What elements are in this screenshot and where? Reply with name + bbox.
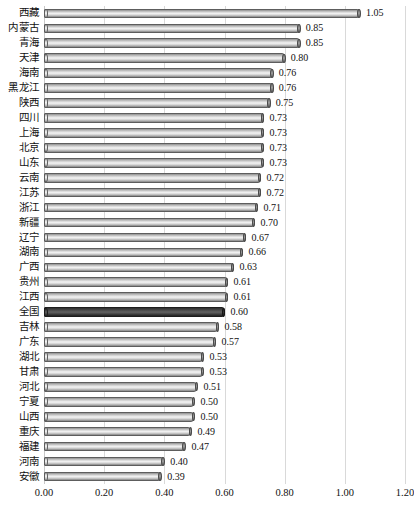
category-label: 江西 xyxy=(19,292,39,303)
category-label: 湖北 xyxy=(19,352,39,363)
category-label: 山东 xyxy=(19,158,39,169)
bar-value-label: 0.85 xyxy=(306,38,324,48)
category-label: 四川 xyxy=(19,113,39,124)
category-label: 山西 xyxy=(19,412,39,423)
bar-row: 广西0.63 xyxy=(44,260,405,275)
category-label: 吉林 xyxy=(19,322,39,333)
bar-value-label: 0.61 xyxy=(234,277,252,287)
bar-fill xyxy=(44,263,234,273)
bar xyxy=(44,38,300,48)
bar-fill xyxy=(44,203,258,213)
category-label: 云南 xyxy=(19,173,39,184)
x-tick-label: 0.80 xyxy=(275,488,293,499)
bar-fill xyxy=(44,38,300,48)
bar xyxy=(44,412,194,422)
bar-value-label: 0.73 xyxy=(270,143,288,153)
category-label: 黑龙江 xyxy=(8,83,39,94)
bar-value-label: 0.50 xyxy=(200,397,218,407)
bar xyxy=(44,397,194,407)
category-label: 北京 xyxy=(19,143,39,154)
bar-value-label: 0.60 xyxy=(231,307,249,317)
bar-fill xyxy=(44,427,191,437)
bar xyxy=(44,158,264,168)
bar-value-label: 0.40 xyxy=(170,457,188,467)
bar-fill xyxy=(44,233,246,243)
category-label: 福建 xyxy=(19,441,39,452)
bar xyxy=(44,68,273,78)
bar-fill xyxy=(44,352,203,362)
bar-value-label: 0.71 xyxy=(264,203,282,213)
category-label: 陕西 xyxy=(19,98,39,109)
bar-value-label: 0.66 xyxy=(249,247,267,257)
bar-fill xyxy=(44,173,261,183)
bar-row: 陕西0.75 xyxy=(44,96,405,111)
bar-fill xyxy=(44,367,203,377)
bar-value-label: 0.57 xyxy=(221,337,239,347)
bar-row: 北京0.73 xyxy=(44,140,405,155)
x-tick-label: 0.40 xyxy=(155,488,173,499)
bar xyxy=(44,24,300,34)
bar-value-label: 0.75 xyxy=(276,98,294,108)
bar-value-label: 0.63 xyxy=(240,262,258,272)
bar xyxy=(44,203,258,213)
bar-fill xyxy=(44,9,360,19)
gridline-1.20 xyxy=(405,6,406,484)
category-label: 海南 xyxy=(19,68,39,79)
bar-row: 西藏1.05 xyxy=(44,6,405,21)
bar-row: 四川0.73 xyxy=(44,111,405,126)
bar-row: 海南0.76 xyxy=(44,66,405,81)
bar-row: 江苏0.72 xyxy=(44,185,405,200)
bar-row: 青海0.85 xyxy=(44,36,405,51)
bar-row: 重庆0.49 xyxy=(44,424,405,439)
bar-row: 福建0.47 xyxy=(44,439,405,454)
x-tick-label: 0.20 xyxy=(95,488,113,499)
category-label: 河南 xyxy=(19,456,39,467)
bar-row: 上海0.73 xyxy=(44,126,405,141)
bar-value-label: 0.76 xyxy=(279,68,297,78)
bar xyxy=(44,128,264,138)
bar-fill xyxy=(44,143,264,153)
category-label: 内蒙古 xyxy=(8,23,39,34)
bar-value-label: 0.39 xyxy=(167,472,185,482)
bar xyxy=(44,352,203,362)
bar xyxy=(44,457,164,467)
bar-fill xyxy=(44,83,273,93)
x-axis: 0.000.200.400.600.801.001.20 xyxy=(44,488,405,508)
bar-value-label: 0.51 xyxy=(203,382,221,392)
bar-value-label: 0.72 xyxy=(267,188,285,198)
bar-row: 全国0.60 xyxy=(44,305,405,320)
category-label: 甘肃 xyxy=(19,367,39,378)
bar-fill xyxy=(44,412,194,422)
bar xyxy=(44,382,197,392)
bar-row: 吉林0.58 xyxy=(44,320,405,335)
bar-row: 宁夏0.50 xyxy=(44,394,405,409)
bar-value-label: 0.50 xyxy=(200,412,218,422)
bar-value-label: 0.58 xyxy=(224,322,242,332)
category-label: 广西 xyxy=(19,262,39,273)
bar-row: 广东0.57 xyxy=(44,335,405,350)
bar-row: 安徽0.39 xyxy=(44,469,405,484)
category-label: 上海 xyxy=(19,128,39,139)
bar-fill xyxy=(44,68,273,78)
bar xyxy=(44,143,264,153)
bar xyxy=(44,83,273,93)
bar xyxy=(44,427,191,437)
bar xyxy=(44,248,243,258)
bar-value-label: 0.53 xyxy=(209,367,227,377)
x-tick-label: 1.00 xyxy=(336,488,354,499)
x-tick-label: 0.00 xyxy=(35,488,53,499)
bar xyxy=(44,98,270,108)
bar-fill xyxy=(44,382,197,392)
category-label: 河北 xyxy=(19,382,39,393)
bar-row: 黑龙江0.76 xyxy=(44,81,405,96)
category-label: 天津 xyxy=(19,53,39,64)
bar xyxy=(44,173,261,183)
bar xyxy=(44,218,255,228)
category-label: 重庆 xyxy=(19,426,39,437)
bar-fill xyxy=(44,457,164,467)
bar xyxy=(44,53,285,63)
bar xyxy=(44,322,218,332)
bar-value-label: 0.73 xyxy=(270,113,288,123)
bar-fill xyxy=(44,248,243,258)
